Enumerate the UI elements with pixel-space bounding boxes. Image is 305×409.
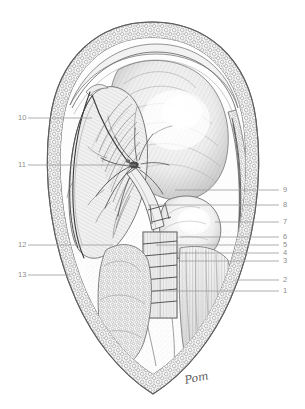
callout-number-13: 13 — [18, 271, 27, 279]
callout-number-9: 9 — [283, 186, 287, 194]
callout-number-11: 11 — [18, 161, 26, 169]
callout-number-2: 2 — [283, 276, 287, 284]
callout-number-10: 10 — [18, 114, 27, 122]
anatomical-illustration — [0, 0, 305, 409]
callout-number-7: 7 — [283, 218, 287, 226]
callout-number-12: 12 — [18, 241, 27, 249]
callout-number-3: 3 — [283, 257, 287, 265]
callout-number-1: 1 — [283, 287, 287, 295]
callout-number-8: 8 — [283, 201, 287, 209]
dissection-field — [50, 30, 260, 394]
